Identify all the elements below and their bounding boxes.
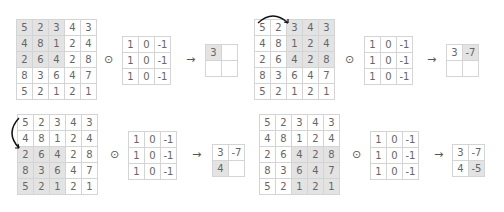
cell: 8 [260, 163, 276, 179]
cell: -1 [155, 69, 171, 85]
kernel-matrix: 10-110-110-1 [364, 36, 413, 85]
cell: 1 [365, 69, 381, 85]
hadamard-operator-icon: ⊙ [352, 148, 361, 161]
cell: 2 [255, 52, 271, 68]
cell: 1 [123, 69, 139, 85]
cell: 0 [139, 69, 155, 85]
arrow-icon: → [434, 148, 443, 161]
kernel-matrix: 10-110-110-1 [122, 36, 171, 85]
cell: 6 [49, 68, 65, 84]
arrow-icon: → [192, 148, 201, 161]
cell: 1 [129, 164, 145, 180]
cell: 4 [66, 115, 82, 131]
cell: 4 [308, 115, 324, 131]
kernel-matrix: 10-110-110-1 [128, 131, 177, 180]
cell: 2 [33, 20, 49, 36]
cell: 1 [129, 148, 145, 164]
cell: 4 [287, 52, 303, 68]
cell: 7 [81, 68, 97, 84]
cell: 1 [319, 84, 335, 100]
cell: -1 [161, 132, 177, 148]
cell: -1 [161, 164, 177, 180]
cell: 0 [139, 53, 155, 69]
cell: 0 [387, 164, 403, 180]
cell: 3 [276, 163, 292, 179]
cell: -1 [397, 69, 413, 85]
input-matrix: 5234348124264288364752121 [16, 19, 97, 100]
cell: 1 [292, 179, 308, 195]
output-matrix: 3 [205, 44, 238, 77]
input-matrix: 5234348124264288364752121 [254, 19, 335, 100]
cell: 4 [324, 131, 340, 147]
cell [222, 45, 238, 61]
cell: 3 [34, 163, 50, 179]
cell: 4 [255, 36, 271, 52]
cell: -1 [397, 53, 413, 69]
cell: 6 [287, 68, 303, 84]
cell: 2 [276, 115, 292, 131]
input-matrix: 5234348124264288364752121 [259, 114, 340, 195]
cell: 3 [206, 45, 222, 61]
cell: 2 [17, 52, 33, 68]
cell: 0 [381, 37, 397, 53]
cell: 2 [65, 52, 81, 68]
cell [206, 61, 222, 77]
stride-arc-icon [256, 9, 290, 28]
hadamard-operator-icon: ⊙ [345, 53, 354, 66]
cell: 3 [49, 20, 65, 36]
output-matrix: 3-74 [212, 144, 245, 177]
cell: 2 [308, 147, 324, 163]
cell: 1 [49, 36, 65, 52]
cell: 3 [447, 45, 463, 61]
cell: 1 [123, 37, 139, 53]
cell: 5 [18, 179, 34, 195]
cell: 8 [34, 131, 50, 147]
cell: 0 [145, 164, 161, 180]
cell: 1 [81, 84, 97, 100]
cell: 4 [213, 161, 229, 177]
cell: 0 [381, 53, 397, 69]
cell: 1 [50, 179, 66, 195]
cell: 2 [271, 84, 287, 100]
cell: 6 [33, 52, 49, 68]
cell: 0 [145, 132, 161, 148]
cell: 6 [276, 147, 292, 163]
cell: 8 [324, 147, 340, 163]
cell: 4 [81, 36, 97, 52]
cell: 8 [17, 68, 33, 84]
arrow-icon: → [186, 53, 195, 66]
cell: 1 [287, 84, 303, 100]
cell: 8 [276, 131, 292, 147]
cell: 3 [33, 68, 49, 84]
cell: -1 [403, 164, 419, 180]
cell: 4 [303, 68, 319, 84]
cell: -5 [469, 161, 485, 177]
cell: 8 [33, 36, 49, 52]
cell: 1 [82, 179, 98, 195]
input-matrix: 5234348124264288364752121 [17, 114, 98, 195]
cell: 1 [324, 179, 340, 195]
cell: 6 [50, 163, 66, 179]
cell: 1 [50, 131, 66, 147]
cell: -1 [403, 132, 419, 148]
cell: 6 [292, 163, 308, 179]
cell: 3 [50, 115, 66, 131]
arrow-icon: → [427, 53, 436, 66]
cell: 4 [292, 147, 308, 163]
cell: -7 [469, 145, 485, 161]
cell: 1 [129, 132, 145, 148]
cell: 4 [65, 68, 81, 84]
cell: 1 [123, 53, 139, 69]
cell: 4 [49, 52, 65, 68]
cell: 2 [34, 179, 50, 195]
cell: 7 [324, 163, 340, 179]
cell: 4 [66, 163, 82, 179]
cell: 2 [303, 84, 319, 100]
cell: -1 [403, 148, 419, 164]
cell: 2 [65, 84, 81, 100]
cell: 8 [81, 52, 97, 68]
cell: 2 [66, 147, 82, 163]
cell: 4 [17, 36, 33, 52]
cell: 4 [453, 161, 469, 177]
cell: 4 [50, 147, 66, 163]
